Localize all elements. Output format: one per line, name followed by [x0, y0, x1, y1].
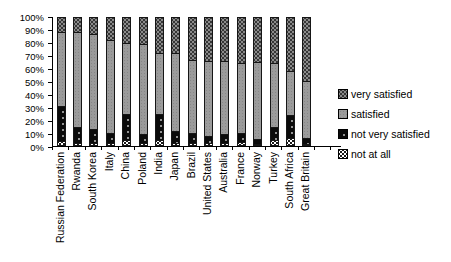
segment-not_at_all — [253, 144, 262, 146]
segment-very_satisfied — [302, 17, 311, 81]
y-tick-label: 40% — [25, 90, 44, 101]
category-label: China — [120, 152, 131, 179]
bar-china — [122, 17, 131, 146]
segment-very_satisfied — [237, 17, 246, 63]
legend-swatch-satisfied — [338, 109, 348, 119]
segment-very_satisfied — [122, 17, 131, 43]
x-label-cell: Brazil — [183, 152, 199, 258]
bar-poland — [139, 17, 148, 146]
legend-label: not very satisfied — [351, 128, 430, 140]
segment-not_very_satisfied — [89, 129, 98, 143]
bar-russian-federation — [57, 17, 66, 146]
segment-not_very_satisfied — [220, 134, 229, 143]
segment-satisfied — [122, 43, 131, 114]
segment-not_at_all — [89, 143, 98, 146]
y-tick-label: 100% — [20, 12, 44, 23]
x-label-cell: Poland — [134, 152, 150, 258]
y-tick-label: 80% — [25, 38, 44, 49]
bar-turkey — [270, 17, 279, 146]
category-label: Italy — [104, 152, 115, 171]
segment-not_at_all — [57, 141, 66, 146]
segment-not_very_satisfied — [270, 127, 279, 140]
segment-not_very_satisfied — [171, 131, 180, 144]
segment-satisfied — [253, 62, 262, 139]
segment-not_at_all — [155, 140, 164, 146]
segment-satisfied — [73, 32, 82, 126]
segment-satisfied — [57, 32, 66, 106]
segment-very_satisfied — [204, 17, 213, 61]
segment-not_at_all — [73, 143, 82, 146]
segment-not_at_all — [122, 140, 131, 146]
legend: very satisfiedsatisfiednot very satisfie… — [338, 88, 430, 160]
x-label-cell: Italy — [101, 152, 117, 258]
segment-very_satisfied — [106, 17, 115, 40]
y-tick-label: 30% — [25, 103, 44, 114]
category-label: Russian Federation — [55, 152, 66, 243]
segment-not_very_satisfied — [237, 133, 246, 142]
bar-great-britain — [302, 17, 311, 146]
segment-satisfied — [286, 71, 295, 115]
bar-south-korea — [89, 17, 98, 146]
legend-swatch-very_satisfied — [338, 89, 348, 99]
bar-rwanda — [73, 17, 82, 146]
segment-very_satisfied — [57, 17, 66, 32]
legend-item-very_satisfied: very satisfied — [338, 88, 430, 100]
segment-satisfied — [89, 34, 98, 129]
x-labels: Russian FederationRwandaSouth KoreaItaly… — [52, 152, 314, 258]
category-label: Norway — [251, 152, 262, 188]
segment-very_satisfied — [171, 17, 180, 53]
bar-south-africa — [286, 17, 295, 146]
segment-not_at_all — [204, 143, 213, 146]
category-label: Rwanda — [71, 152, 82, 191]
segment-satisfied — [188, 60, 197, 134]
legend-item-satisfied: satisfied — [338, 108, 430, 120]
segment-satisfied — [220, 61, 229, 135]
bar-france — [237, 17, 246, 146]
y-tick-label: 50% — [25, 77, 44, 88]
segment-not_at_all — [270, 140, 279, 146]
segment-satisfied — [204, 61, 213, 136]
category-label: Japan — [169, 152, 180, 181]
legend-item-not_very_satisfied: not very satisfied — [338, 128, 430, 140]
segment-very_satisfied — [188, 17, 197, 60]
x-label-cell: United States — [199, 152, 215, 258]
segment-not_at_all — [106, 143, 115, 146]
bar-australia — [220, 17, 229, 146]
segment-not_very_satisfied — [73, 127, 82, 144]
y-tick-label: 20% — [25, 116, 44, 127]
segment-very_satisfied — [89, 17, 98, 34]
x-label-cell: Japan — [167, 152, 183, 258]
y-tick-label: 10% — [25, 129, 44, 140]
segment-not_very_satisfied — [122, 114, 131, 140]
bar-italy — [106, 17, 115, 146]
category-label: India — [153, 152, 164, 175]
x-label-cell: South Korea — [85, 152, 101, 258]
segment-not_at_all — [220, 143, 229, 146]
x-label-cell: India — [150, 152, 166, 258]
x-label-cell: Great Britain — [298, 152, 314, 258]
segment-not_very_satisfied — [57, 106, 66, 141]
category-label: Poland — [137, 152, 148, 185]
x-label-cell: Turkey — [265, 152, 281, 258]
category-label: Great Britain — [300, 152, 311, 211]
category-label: Australia — [218, 152, 229, 193]
segment-not_very_satisfied — [155, 114, 164, 140]
legend-label: very satisfied — [351, 88, 412, 100]
segment-very_satisfied — [286, 17, 295, 71]
segment-not_at_all — [139, 143, 148, 146]
segment-very_satisfied — [253, 17, 262, 62]
bar-norway — [253, 17, 262, 146]
segment-not_at_all — [286, 138, 295, 146]
segment-not_very_satisfied — [286, 115, 295, 138]
segment-very_satisfied — [155, 17, 164, 53]
plot-area — [52, 17, 341, 147]
legend-swatch-not_at_all — [338, 149, 348, 159]
segment-very_satisfied — [220, 17, 229, 61]
x-label-cell: Norway — [249, 152, 265, 258]
y-tick-label: 70% — [25, 51, 44, 62]
segment-not_at_all — [188, 143, 197, 146]
y-tick-label: 90% — [25, 25, 44, 36]
bars — [53, 17, 315, 146]
segment-very_satisfied — [270, 17, 279, 63]
segment-not_at_all — [171, 143, 180, 146]
